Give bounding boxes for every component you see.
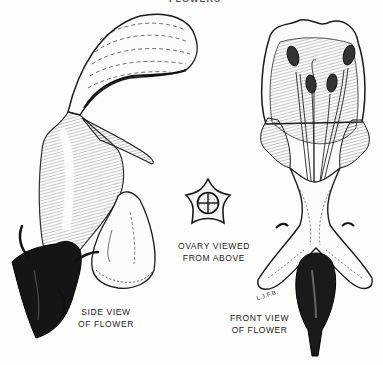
ovary-label: OVARY VIEWED FROM ABOVE	[178, 240, 250, 264]
front-view-flower	[258, 20, 372, 356]
front-view-label: FRONT VIEW OF FLOWER	[230, 312, 289, 336]
flower-illustration	[0, 0, 383, 365]
ovary-top-view	[186, 179, 230, 223]
side-view-label: SIDE VIEW OF FLOWER	[78, 306, 134, 330]
side-view-flower	[12, 14, 197, 338]
illustration-page: FLOWERS	[0, 0, 383, 365]
